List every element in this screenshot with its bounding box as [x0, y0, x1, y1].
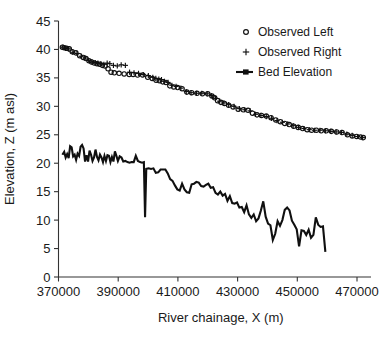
y-axis-title: Elevation, Z (m asl) — [2, 93, 17, 205]
y-axis-tick-label: 40 — [36, 42, 50, 57]
y-axis-tick-label: 25 — [36, 127, 50, 142]
legend-item[interactable]: Observed Right — [243, 45, 342, 59]
chart-legend: Observed LeftObserved RightBed Elevation — [236, 25, 342, 79]
x-axis-tick-label: 370000 — [37, 284, 80, 299]
y-axis-tick-label: 35 — [36, 70, 50, 85]
data-point-observed-left — [117, 71, 121, 75]
chart-canvas: 0510152025303540453700003900004100004300… — [0, 0, 389, 339]
legend-marker-square-icon — [243, 69, 249, 74]
legend-marker-open-circle-icon — [244, 30, 249, 35]
y-axis-tick-label: 0 — [43, 270, 50, 285]
series-line-bed-elevation — [62, 145, 325, 252]
y-axis-tick-label: 15 — [36, 184, 50, 199]
y-axis-tick-label: 20 — [36, 156, 50, 171]
legend-label: Observed Right — [258, 45, 342, 59]
x-axis-tick-label: 470000 — [335, 284, 378, 299]
x-axis-title: River chainage, X (m) — [158, 310, 284, 325]
x-axis-tick-label: 390000 — [97, 284, 140, 299]
legend-label: Observed Left — [258, 25, 334, 39]
legend-item[interactable]: Observed Left — [244, 25, 334, 39]
y-axis-tick-label: 45 — [36, 14, 50, 29]
y-axis-tick-label: 10 — [36, 213, 50, 228]
data-point-observed-left — [122, 72, 126, 76]
y-axis-tick-label: 5 — [43, 241, 50, 256]
x-axis-tick-label: 450000 — [276, 284, 319, 299]
chart-figure: 0510152025303540453700003900004100004300… — [0, 0, 389, 339]
x-axis-tick-label: 410000 — [156, 284, 199, 299]
legend-item[interactable]: Bed Elevation — [236, 65, 332, 79]
y-axis-tick-label: 30 — [36, 99, 50, 114]
legend-label: Bed Elevation — [258, 65, 332, 79]
x-axis-tick-label: 430000 — [216, 284, 259, 299]
